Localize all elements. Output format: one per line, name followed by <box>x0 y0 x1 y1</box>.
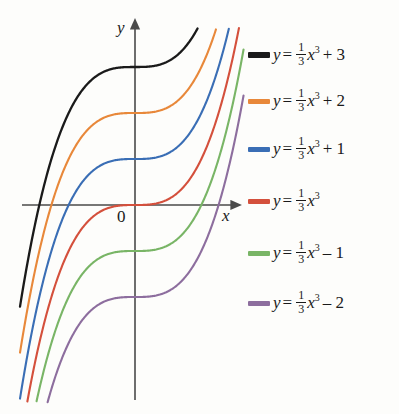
fraction-one-third: 13 <box>296 239 306 264</box>
legend-equation: y=13x3– 1 <box>273 240 344 265</box>
legend-color-swatch <box>248 301 270 306</box>
legend-equation: y=13x3+ 1 <box>273 136 345 161</box>
equals-sign: = <box>283 91 293 111</box>
legend-equation: y=13x3+ 3 <box>273 42 345 67</box>
constant-term: + 1 <box>323 139 345 159</box>
curve-5 <box>48 95 244 402</box>
legend-item[interactable]: y=13x3 <box>248 184 320 218</box>
legend-item[interactable]: y=13x3– 1 <box>248 236 344 270</box>
equation-lhs: y <box>273 91 281 111</box>
legend-item[interactable]: y=13x3+ 1 <box>248 132 345 166</box>
equals-sign: = <box>283 139 293 159</box>
legend-item[interactable]: y=13x3+ 2 <box>248 84 345 118</box>
legend-color-swatch <box>248 99 270 104</box>
equation-lhs: y <box>273 191 281 211</box>
fraction-numerator: 1 <box>296 239 306 251</box>
y-axis-label: y <box>117 18 125 38</box>
x-cubed-term: x3 <box>307 45 320 65</box>
equation-lhs: y <box>273 243 281 263</box>
legend-color-swatch <box>248 147 270 152</box>
constant-term: + 3 <box>323 45 345 65</box>
fraction-one-third: 13 <box>296 187 306 212</box>
exponent: 3 <box>315 44 320 55</box>
x-cubed-term: x3 <box>307 191 320 211</box>
fraction-numerator: 1 <box>296 135 306 147</box>
plot-area: y x 0 <box>0 0 250 414</box>
legend-color-swatch <box>248 251 270 256</box>
curve-group <box>20 28 244 402</box>
fraction-denominator: 3 <box>296 148 306 161</box>
legend-equation: y=13x3 <box>273 188 320 213</box>
curve-3 <box>27 28 239 401</box>
origin-label: 0 <box>117 207 126 227</box>
legend-color-swatch <box>248 199 270 204</box>
constant-term: – 1 <box>323 243 344 263</box>
x-cubed-term: x3 <box>307 243 320 263</box>
legend-equation: y=13x3– 2 <box>273 290 344 315</box>
fraction-numerator: 1 <box>296 87 306 99</box>
fraction-denominator: 3 <box>296 200 306 213</box>
x-cubed-term: x3 <box>307 91 320 111</box>
fraction-one-third: 13 <box>296 135 306 160</box>
x-cubed-term: x3 <box>307 293 320 313</box>
legend-color-swatch <box>248 52 270 58</box>
fraction-one-third: 13 <box>296 289 306 314</box>
exponent: 3 <box>315 90 320 101</box>
equals-sign: = <box>283 45 293 65</box>
fraction-one-third: 13 <box>296 41 306 66</box>
exponent: 3 <box>315 190 320 201</box>
equation-lhs: y <box>273 139 281 159</box>
equation-lhs: y <box>273 293 281 313</box>
legend: y=13x3+ 3y=13x3+ 2y=13x3+ 1y=13x3y=13x3–… <box>248 0 399 414</box>
fraction-denominator: 3 <box>296 54 306 67</box>
x-cubed-term: x3 <box>307 139 320 159</box>
exponent: 3 <box>315 138 320 149</box>
equation-lhs: y <box>273 45 281 65</box>
fraction-denominator: 3 <box>296 100 306 113</box>
legend-equation: y=13x3+ 2 <box>273 88 345 113</box>
exponent: 3 <box>315 242 320 253</box>
fraction-denominator: 3 <box>296 252 306 265</box>
exponent: 3 <box>315 292 320 303</box>
equals-sign: = <box>283 293 293 313</box>
fraction-denominator: 3 <box>296 302 306 315</box>
constant-term: – 2 <box>323 293 344 313</box>
figure-root: y x 0 y=13x3+ 3y=13x3+ 2y=13x3+ 1y=13x3y… <box>0 0 399 414</box>
legend-item[interactable]: y=13x3– 2 <box>248 286 344 320</box>
equals-sign: = <box>283 243 293 263</box>
constant-term: + 2 <box>323 91 345 111</box>
fraction-numerator: 1 <box>296 187 306 199</box>
equals-sign: = <box>283 191 293 211</box>
fraction-one-third: 13 <box>296 87 306 112</box>
legend-item[interactable]: y=13x3+ 3 <box>248 38 345 72</box>
fraction-numerator: 1 <box>296 41 306 53</box>
x-axis-label: x <box>222 206 230 226</box>
fraction-numerator: 1 <box>296 289 306 301</box>
